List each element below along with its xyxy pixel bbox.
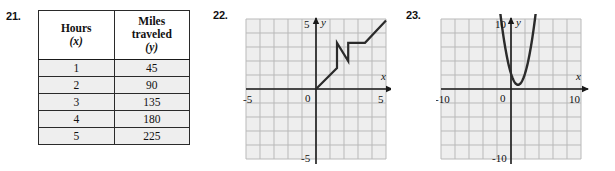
cell-miles: 45 [114,60,190,77]
x-axis-label: x [575,70,581,82]
cell-hours: 5 [39,128,115,145]
y-tick-label-negative: -10 [492,152,507,164]
x-tick-label-negative: -10 [436,93,450,105]
cell-hours: 4 [39,111,115,128]
table-body: 1 45 2 90 3 135 4 180 5 225 [39,60,190,145]
coordinate-graph-22: x y -5 5 5 -5 0 [241,14,391,164]
cell-hours: 2 [39,77,115,94]
column-header-hours-main: Hours [61,22,92,34]
column-header-miles-main-line2: traveled [132,28,172,40]
problem-23: 23. x y -10 10 10 -10 0 [402,0,615,171]
hours-miles-table: Hours (x) Miles traveled (y) 1 45 2 90 3 [38,10,190,145]
origin-label: 0 [500,92,506,104]
y-axis-label: y [320,16,326,28]
problem-number-22: 22. [213,9,228,21]
column-header-miles-variable: (y) [117,41,188,54]
column-header-miles-main-line1: Miles [138,15,165,27]
table-row: 5 225 [39,128,190,145]
cell-miles: 180 [114,111,190,128]
x-axis-arrow [582,86,589,92]
table-row: 1 45 [39,60,190,77]
problem-21: 21. Hours (x) Miles traveled (y) 1 45 [0,0,205,171]
column-header-miles: Miles traveled (y) [114,11,190,60]
y-tick-label-negative: -5 [301,152,311,164]
x-tick-label-positive: 5 [378,93,384,105]
column-header-hours: Hours (x) [39,11,115,60]
y-axis-label: y [515,16,521,28]
table-header: Hours (x) Miles traveled (y) [39,11,190,60]
origin-label: 0 [305,92,311,104]
cell-hours: 1 [39,60,115,77]
x-axis-arrow [386,86,391,92]
table-row: 2 90 [39,77,190,94]
cell-miles: 135 [114,94,190,111]
x-axis-label: x [380,70,386,82]
table-row: 4 180 [39,111,190,128]
problem-22: 22. x y -5 5 5 -5 0 [205,0,402,171]
problem-number-23: 23. [406,9,421,21]
cell-miles: 225 [114,128,190,145]
graph-22-canvas: x y -5 5 5 -5 0 [241,14,391,164]
cell-hours: 3 [39,94,115,111]
graph-23-canvas: x y -10 10 10 -10 0 [436,14,591,164]
x-tick-label-negative: -5 [243,93,253,105]
problem-number-21: 21. [6,10,21,22]
y-tick-label-positive: 10 [495,18,507,30]
column-header-hours-variable: (x) [41,35,112,48]
x-tick-label-positive: 10 [569,93,581,105]
table-header-row: Hours (x) Miles traveled (y) [39,11,190,60]
y-tick-label-positive: 5 [304,18,310,30]
coordinate-graph-23: x y -10 10 10 -10 0 [436,14,591,164]
table-row: 3 135 [39,94,190,111]
cell-miles: 90 [114,77,190,94]
